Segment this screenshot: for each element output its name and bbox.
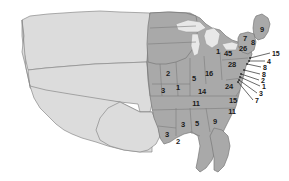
leader-tip-callout-3 <box>246 63 248 65</box>
map-label-gulf-coast: 2 <box>176 138 180 146</box>
map-label-illinois: 1 <box>176 84 180 92</box>
map-label-kentucky: 14 <box>198 88 206 96</box>
leader-tip-callout-6 <box>239 76 241 78</box>
leader-tip-callout-8 <box>237 81 239 83</box>
map-label-callout-3: 8 <box>263 64 267 71</box>
map-label-southcarolina: 11 <box>228 108 236 116</box>
map-label-tennessee: 11 <box>192 100 200 108</box>
map-label-virginia: 24 <box>225 83 233 91</box>
map-label-greatlakes-b: 45 <box>224 50 232 58</box>
leader-tip-callout-1 <box>249 57 251 59</box>
map-label-newyork: 26 <box>239 45 247 53</box>
leader-line-callout-6 <box>240 77 260 86</box>
map-label-midwest-upper: 2 <box>166 70 170 78</box>
map-label-indiana: 5 <box>192 75 196 83</box>
us-map-figure: 2315161411242826145151195332987 15488213… <box>0 0 289 181</box>
map-label-ohio: 16 <box>205 70 213 78</box>
map-label-maine: 9 <box>260 26 264 34</box>
map-label-newhampshire: 8 <box>251 39 255 47</box>
map-label-northcarolina: 15 <box>229 97 237 105</box>
leader-line-callout-4 <box>244 70 260 74</box>
us-map-svg <box>0 0 289 181</box>
leader-line-callout-3 <box>247 64 261 67</box>
map-label-callout-7: 3 <box>259 90 263 97</box>
map-label-vermont: 7 <box>243 35 247 43</box>
map-label-plains-lower: 3 <box>161 87 165 95</box>
map-label-callout-8: 7 <box>255 97 259 104</box>
map-label-georgia: 9 <box>213 118 217 126</box>
leader-tip-callout-7 <box>238 79 240 81</box>
map-label-callout-6: 1 <box>262 83 266 90</box>
region-west-block <box>22 11 152 70</box>
map-label-greatlakes-a: 1 <box>216 48 220 56</box>
leader-tip-callout-4 <box>243 69 245 71</box>
map-regions-light <box>22 11 160 152</box>
leader-tip-callout-2 <box>248 60 250 62</box>
map-label-callout-1: 15 <box>272 50 279 57</box>
map-label-louisiana: 3 <box>165 131 169 139</box>
leader-line-callout-5 <box>241 74 259 80</box>
map-label-mississippi: 3 <box>181 121 185 129</box>
leader-tip-callout-5 <box>240 73 242 75</box>
map-label-callout-2: 4 <box>267 58 271 65</box>
map-label-pennsylvania: 28 <box>228 61 236 69</box>
map-label-alabama: 5 <box>195 120 199 128</box>
region-florida <box>210 128 230 172</box>
